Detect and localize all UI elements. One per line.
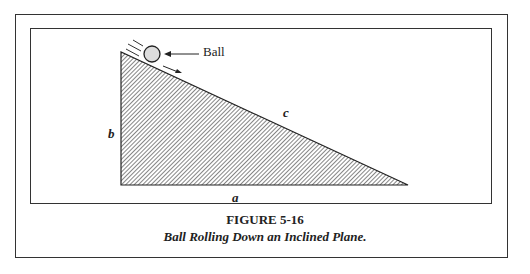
side-label-a: a — [232, 190, 239, 206]
figure-caption: Ball Rolling Down an Inclined Plane. — [0, 229, 530, 245]
figure-number: FIGURE 5-16 — [0, 212, 530, 228]
ball — [144, 46, 160, 62]
side-label-c: c — [283, 105, 289, 121]
inclined-plane-triangle — [121, 52, 408, 185]
ball-pointer-arrow-icon — [164, 51, 199, 57]
motion-lines — [126, 40, 143, 56]
side-label-b: b — [108, 126, 115, 142]
direction-arrow-icon — [163, 66, 182, 73]
ball-label: Ball — [203, 44, 225, 60]
